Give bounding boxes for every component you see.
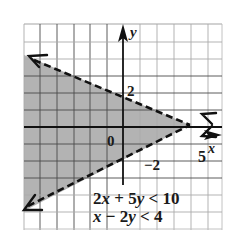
inequality-graph: y 2 0 −2 5 x 2x + 5y < 10 x − 2y < 4 [0, 0, 233, 238]
inequality-1: 2x + 5y < 10 [93, 189, 179, 208]
y-tick-2: 2 [127, 83, 135, 99]
origin-label: 0 [107, 133, 115, 149]
arrow-right-upper-icon [202, 113, 216, 124]
x-axis-label: x [207, 141, 215, 156]
x-tick-5: 5 [198, 148, 206, 165]
y-axis-label: y [128, 24, 137, 40]
inequality-2: x − 2y < 4 [92, 207, 163, 226]
y-tick-neg2: −2 [144, 157, 160, 173]
